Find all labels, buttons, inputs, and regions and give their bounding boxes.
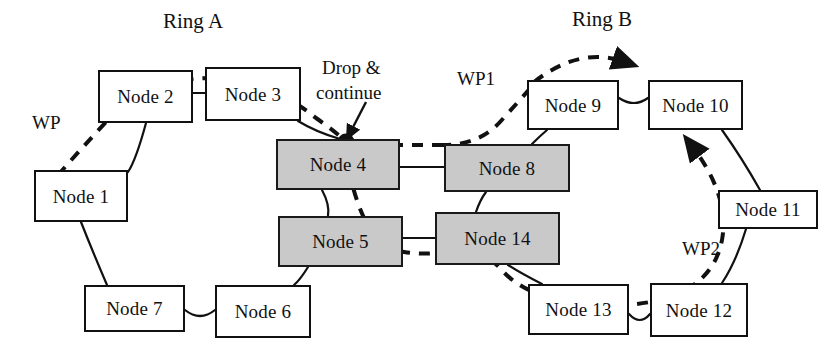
node-2-label: Node 2 [117,87,174,106]
node-7[interactable]: Node 7 [84,285,185,332]
node-9-label: Node 9 [545,96,602,115]
wp1-label: WP1 [457,68,495,89]
node-5-label: Node 5 [312,232,369,251]
node-3[interactable]: Node 3 [205,67,301,121]
drop-continue-line1: Drop & [322,57,381,78]
node-6[interactable]: Node 6 [215,285,311,338]
node-4-label: Node 4 [310,155,367,174]
node-6-label: Node 6 [235,302,292,321]
ring-b-title: Ring B [572,8,632,32]
node-13-label: Node 13 [545,300,611,319]
node-14-label: Node 14 [464,229,530,248]
node-7-label: Node 7 [106,299,163,318]
node-10-label: Node 10 [662,96,728,115]
node-1[interactable]: Node 1 [34,170,128,222]
node-12-label: Node 12 [666,301,732,320]
node-11[interactable]: Node 11 [718,190,818,229]
drop-continue-arrow [350,102,366,133]
node-13[interactable]: Node 13 [528,284,629,335]
wp-label: WP [32,112,61,133]
node-4[interactable]: Node 4 [276,139,400,190]
node-8-label: Node 8 [479,159,536,178]
node-8[interactable]: Node 8 [444,144,570,192]
node-10[interactable]: Node 10 [648,80,743,130]
wp2-label: WP2 [682,238,720,259]
ring-a-title: Ring A [163,10,223,34]
node-9[interactable]: Node 9 [527,80,619,130]
drop-continue-line2: continue [316,82,381,103]
node-5[interactable]: Node 5 [278,216,403,267]
node-12[interactable]: Node 12 [650,283,748,337]
network-diagram: Node 1Node 2Node 3Node 4Node 5Node 6Node… [0,0,838,349]
node-14[interactable]: Node 14 [435,212,560,265]
node-11-label: Node 11 [735,200,801,219]
node-2[interactable]: Node 2 [98,70,193,123]
node-3-label: Node 3 [225,85,282,104]
node-1-label: Node 1 [53,187,110,206]
